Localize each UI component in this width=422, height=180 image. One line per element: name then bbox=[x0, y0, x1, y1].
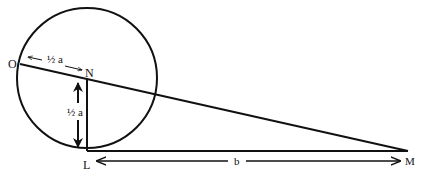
point-label-m: M bbox=[405, 155, 415, 167]
point-label-l: L bbox=[83, 158, 90, 172]
point-label-o: O bbox=[8, 57, 17, 71]
on-arrow-right bbox=[65, 66, 82, 70]
length-label-nl: ½ a bbox=[67, 106, 83, 118]
on-arrow-left bbox=[28, 57, 42, 60]
length-label-lm: b bbox=[234, 155, 240, 167]
geometry-diagram: O N L M ½ a ½ a b bbox=[0, 0, 422, 180]
point-label-n: N bbox=[85, 66, 94, 80]
length-label-on: ½ a bbox=[47, 53, 63, 65]
